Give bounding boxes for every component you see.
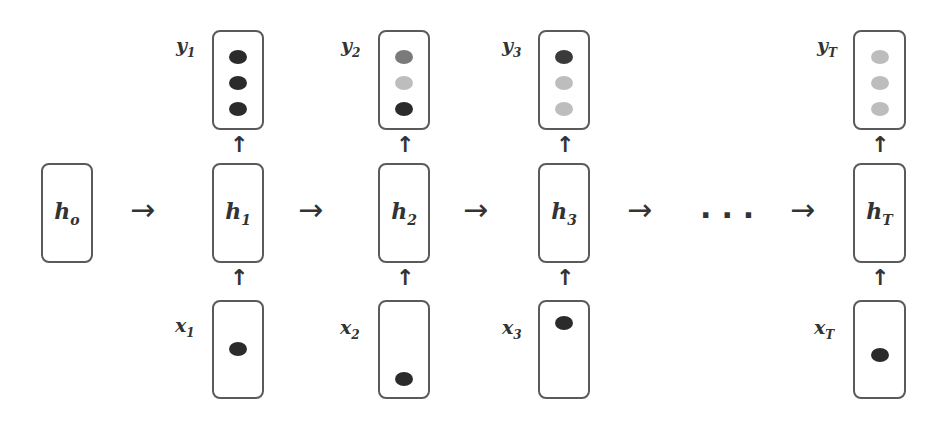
output-vector-y1 (212, 30, 264, 130)
arrow-right-icon: → (463, 195, 488, 225)
hidden-state-h3: h3 (538, 163, 590, 263)
input-unit-active (555, 316, 573, 330)
arrow-up-icon: ↑ (230, 134, 248, 156)
output-unit (395, 50, 413, 64)
arrow-right-icon: → (130, 195, 155, 225)
input-x1-label: x1 (175, 314, 195, 340)
input-x2-label: x2 (340, 316, 360, 342)
output-vector-y2 (378, 30, 430, 130)
output-unit (871, 50, 889, 64)
hidden-state-hT-label: hT (855, 198, 904, 227)
input-unit-active (229, 342, 247, 356)
arrow-up-icon: ↑ (871, 267, 889, 289)
output-yT-label: yT (817, 34, 837, 60)
input-xT-label: xT (814, 316, 834, 342)
output-unit (395, 102, 413, 116)
input-unit-active (395, 372, 413, 386)
arrow-up-icon: ↑ (556, 267, 574, 289)
input-vector-xT (853, 300, 906, 399)
arrow-up-icon: ↑ (230, 267, 248, 289)
output-vector-yT (853, 30, 906, 130)
arrow-up-icon: ↑ (396, 134, 414, 156)
hidden-state-h1-label: h1 (214, 198, 262, 227)
arrow-right-icon: → (298, 195, 323, 225)
output-unit (229, 50, 247, 64)
arrow-up-icon: ↑ (871, 134, 889, 156)
hidden-state-h0-label: ho (43, 198, 91, 227)
input-x3-label: x3 (502, 316, 522, 342)
output-y3-label: y3 (502, 34, 521, 60)
hidden-state-h2-label: h2 (380, 198, 428, 227)
hidden-state-h1: h1 (212, 163, 264, 263)
ellipsis: ... (700, 190, 764, 225)
output-unit (555, 76, 573, 90)
input-vector-x3 (538, 300, 590, 399)
output-unit (871, 76, 889, 90)
output-y1-label: y1 (176, 34, 195, 60)
arrow-right-icon: → (790, 195, 815, 225)
output-vector-y3 (538, 30, 590, 130)
output-y2-label: y2 (341, 34, 360, 60)
hidden-state-h0: ho (41, 163, 93, 263)
output-unit (395, 76, 413, 90)
hidden-state-hT: hT (853, 163, 906, 263)
input-vector-x1 (212, 300, 264, 399)
arrow-right-icon: → (627, 195, 652, 225)
output-unit (871, 102, 889, 116)
output-unit (555, 102, 573, 116)
hidden-state-h3-label: h3 (540, 198, 588, 227)
input-unit-active (871, 348, 889, 362)
arrow-up-icon: ↑ (396, 267, 414, 289)
output-unit (555, 50, 573, 64)
output-unit (229, 76, 247, 90)
arrow-up-icon: ↑ (556, 134, 574, 156)
output-unit (229, 102, 247, 116)
input-vector-x2 (378, 300, 430, 399)
hidden-state-h2: h2 (378, 163, 430, 263)
